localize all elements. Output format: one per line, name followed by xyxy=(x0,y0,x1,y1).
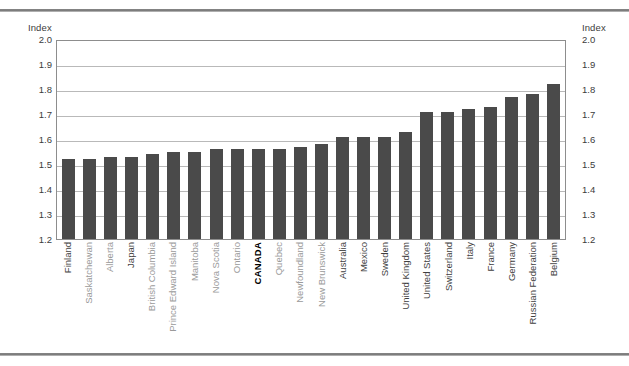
bottom-divider-rule xyxy=(0,353,629,356)
bar xyxy=(505,97,518,240)
x-axis-label: Australia xyxy=(336,242,349,347)
x-axis-label: Manitoba xyxy=(188,242,201,347)
y-tick-label: 1.4 xyxy=(582,185,606,195)
bar xyxy=(231,149,244,239)
x-axis-label-text: Australia xyxy=(338,242,348,279)
y-tick-label: 2.0 xyxy=(582,35,606,45)
x-axis-label-text: Alberta xyxy=(105,242,115,272)
bar xyxy=(399,132,412,240)
bar xyxy=(441,112,454,240)
y-tick-label: 1.6 xyxy=(28,135,52,145)
bar xyxy=(188,152,201,240)
x-axis-label-text: Nova Scotia xyxy=(211,242,221,293)
bar xyxy=(420,112,433,240)
x-axis-label-text: Mexico xyxy=(359,242,369,272)
x-axis-label-text: France xyxy=(486,242,496,272)
bar xyxy=(125,157,138,240)
x-axis-label: Alberta xyxy=(103,242,116,347)
left-axis-caption: Index xyxy=(28,22,52,33)
y-tick-label: 1.5 xyxy=(582,160,606,170)
bar xyxy=(294,147,307,240)
x-axis-label: Japan xyxy=(125,242,138,347)
x-axis-label: Nova Scotia xyxy=(209,242,222,347)
x-axis-label: Ontario xyxy=(230,242,243,347)
bar xyxy=(273,149,286,239)
x-axis-label-text: United Kingdom xyxy=(401,242,411,310)
x-axis-label-text: New Brunswick xyxy=(317,242,327,307)
x-axis-label-text: Newfoundland xyxy=(295,242,305,303)
x-axis-label-text: Ontario xyxy=(232,242,242,273)
x-axis-label: Prince Edward Island xyxy=(167,242,180,347)
top-divider-rule xyxy=(0,9,629,12)
y-tick-label: 1.8 xyxy=(28,85,52,95)
bar xyxy=(315,144,328,239)
x-axis-label: CANADA xyxy=(252,242,265,347)
y-tick-label: 2.0 xyxy=(28,35,52,45)
bar xyxy=(462,109,475,239)
x-axis-label-text: Quebec xyxy=(274,242,284,275)
x-axis-label-text: Saskatchewan xyxy=(84,242,94,304)
y-tick-label: 1.4 xyxy=(28,185,52,195)
x-axis-label: Mexico xyxy=(357,242,370,347)
bar xyxy=(62,159,75,239)
x-axis-label: British Columbia xyxy=(146,242,159,347)
bar xyxy=(547,84,560,239)
x-axis-label: New Brunswick xyxy=(315,242,328,347)
bar-series xyxy=(57,41,565,239)
x-axis-label: Saskatchewan xyxy=(82,242,95,347)
x-axis-label: Belgium xyxy=(548,242,561,347)
x-axis-label: Germany xyxy=(506,242,519,347)
x-axis-label-text: British Columbia xyxy=(147,242,157,311)
bar xyxy=(357,137,370,240)
bar xyxy=(83,159,96,239)
chart-plot-area xyxy=(56,40,566,240)
x-axis-label-text: Prince Edward Island xyxy=(168,242,178,332)
y-tick-label: 1.8 xyxy=(582,85,606,95)
bar xyxy=(146,154,159,239)
y-tick-label: 1.6 xyxy=(582,135,606,145)
x-axis-label-text: Japan xyxy=(126,242,136,268)
x-axis-label: Sweden xyxy=(379,242,392,347)
bar xyxy=(526,94,539,239)
x-axis-label-text: Sweden xyxy=(380,242,390,276)
x-axis-label-text: Manitoba xyxy=(190,242,200,281)
x-axis-label: France xyxy=(484,242,497,347)
x-axis-label-text: Switzerland xyxy=(444,242,454,291)
y-tick-label: 1.2 xyxy=(28,235,52,245)
x-axis-label: United Kingdom xyxy=(400,242,413,347)
y-tick-label: 1.9 xyxy=(582,60,606,70)
x-axis-label: Newfoundland xyxy=(294,242,307,347)
bar xyxy=(104,157,117,240)
x-axis-label: Finland xyxy=(61,242,74,347)
x-axis-label: Russian Federation xyxy=(527,242,540,347)
x-axis-label: United States xyxy=(421,242,434,347)
x-axis-label: Switzerland xyxy=(442,242,455,347)
bar xyxy=(484,107,497,240)
y-tick-label: 1.3 xyxy=(28,210,52,220)
x-axis-label-text: Germany xyxy=(507,242,517,281)
x-axis-label: Quebec xyxy=(273,242,286,347)
x-axis-label-text: Russian Federation xyxy=(528,242,538,324)
bar xyxy=(252,149,265,239)
y-tick-label: 1.2 xyxy=(582,235,606,245)
x-axis-category-labels: FinlandSaskatchewanAlbertaJapanBritish C… xyxy=(56,242,566,347)
x-axis-label-text: Italy xyxy=(465,242,475,259)
bar xyxy=(167,152,180,240)
y-tick-label: 1.5 xyxy=(28,160,52,170)
x-axis-label-text: Belgium xyxy=(549,242,559,276)
x-axis-label: Italy xyxy=(463,242,476,347)
bar xyxy=(210,149,223,239)
bar xyxy=(378,137,391,240)
y-tick-label: 1.3 xyxy=(582,210,606,220)
x-axis-label-text: CANADA xyxy=(253,242,263,284)
y-tick-label: 1.9 xyxy=(28,60,52,70)
x-axis-label-text: Finland xyxy=(63,242,73,273)
y-tick-label: 1.7 xyxy=(28,110,52,120)
x-axis-label-text: United States xyxy=(422,242,432,299)
bar xyxy=(336,137,349,240)
right-axis-caption: Index xyxy=(582,22,606,33)
y-tick-label: 1.7 xyxy=(582,110,606,120)
